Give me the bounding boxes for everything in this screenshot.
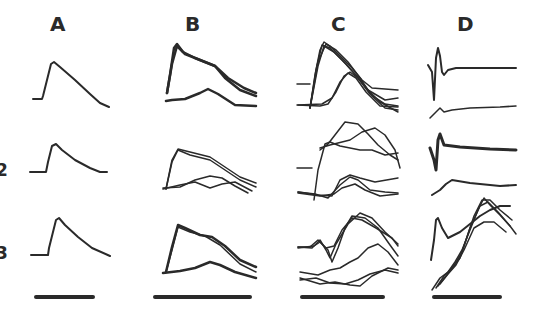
panel-c-traces xyxy=(297,42,400,297)
figure: A B C D 2 3 xyxy=(0,0,535,313)
traces-plot xyxy=(0,0,535,313)
panel-a-traces xyxy=(30,62,110,297)
panel-d-traces xyxy=(428,48,516,297)
panel-b-traces xyxy=(155,44,256,297)
